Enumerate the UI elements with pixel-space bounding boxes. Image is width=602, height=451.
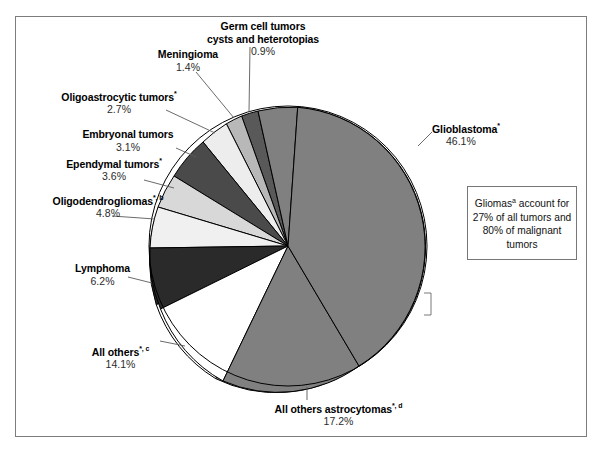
label-glioblastoma-text: Glioblastoma [432, 123, 497, 135]
label-ependymal-name: Ependymal tumors* [26, 155, 202, 170]
label-all-others-footnote: *, c [139, 345, 149, 352]
label-astrocytomas-text: All others astrocytomas [275, 403, 392, 415]
label-ependymal-tumors: Ependymal tumors* 3.6% [26, 155, 202, 183]
label-lymphoma-name: Lymphoma [40, 262, 165, 275]
callout-line-3: 80% of malignant [472, 224, 572, 238]
callout-line-1-text: Gliomas [475, 198, 512, 209]
label-oligodendrogliomas: Oligodendrogliomas*, b 4.8% [10, 192, 206, 220]
label-germ-cell-name-line1: Germ cell tumors [178, 20, 348, 33]
footnote-strip [0, 441, 602, 451]
label-embryonal-pct: 3.1% [48, 141, 208, 154]
label-germ-cell-name-line2: cysts and heterotopias [178, 33, 348, 46]
label-embryonal-tumors: Embryonal tumors 3.1% [48, 128, 208, 153]
label-lymphoma-pct: 6.2% [40, 275, 165, 288]
label-oligodendrogliomas-name: Oligodendrogliomas*, b [10, 192, 206, 207]
label-glioblastoma: Glioblastoma* 46.1% [432, 120, 562, 148]
label-oligodendrogliomas-pct: 4.8% [10, 207, 206, 220]
label-glioblastoma-footnote: * [497, 122, 500, 129]
label-oligodendrogliomas-text: Oligodendrogliomas [53, 195, 153, 207]
figure-container: Germ cell tumors cysts and heterotopias … [0, 0, 602, 451]
callout-line-1-rest: account for [516, 198, 569, 209]
callout-line-2: 27% of all tumors and [472, 211, 572, 225]
label-oligodendrogliomas-footnote: *, b [153, 194, 164, 201]
label-meningioma-pct: 1.4% [128, 61, 248, 74]
label-glioblastoma-pct: 46.1% [432, 135, 562, 148]
label-glioblastoma-name: Glioblastoma* [432, 120, 562, 135]
pie-edge-bracket [424, 293, 431, 315]
label-meningioma: Meningioma 1.4% [128, 48, 248, 73]
label-embryonal-name: Embryonal tumors [48, 128, 208, 141]
label-astrocytomas-name: All others astrocytomas*, d [236, 400, 441, 415]
label-oligoastrocytic-text: Oligoastrocytic tumors [61, 91, 174, 103]
label-oligoastrocytic-name: Oligoastrocytic tumors* [28, 88, 210, 103]
label-astrocytomas-pct: 17.2% [236, 415, 441, 428]
label-oligoastrocytic-tumors: Oligoastrocytic tumors* 2.7% [28, 88, 210, 116]
callout-line-1: Gliomasa account for [472, 194, 572, 211]
label-all-others-pct: 14.1% [58, 358, 183, 371]
callout-line-4: tumors [472, 238, 572, 252]
label-ependymal-footnote: * [159, 157, 162, 164]
label-all-others: All others*, c 14.1% [58, 343, 183, 371]
label-astrocytomas-footnote: *, d [392, 402, 403, 409]
label-oligoastrocytic-pct: 2.7% [28, 103, 210, 116]
label-ependymal-pct: 3.6% [26, 170, 202, 183]
label-all-others-name: All others*, c [58, 343, 183, 358]
label-all-others-text: All others [92, 346, 139, 358]
label-ependymal-text: Ependymal tumors [66, 158, 159, 170]
label-all-others-astrocytomas: All others astrocytomas*, d 17.2% [236, 400, 441, 428]
gliomas-callout-box: Gliomasa account for 27% of all tumors a… [467, 186, 577, 260]
leader-glioblastoma [418, 132, 432, 146]
label-lymphoma: Lymphoma 6.2% [40, 262, 165, 287]
label-meningioma-name: Meningioma [128, 48, 248, 61]
label-oligoastrocytic-footnote: * [174, 90, 177, 97]
